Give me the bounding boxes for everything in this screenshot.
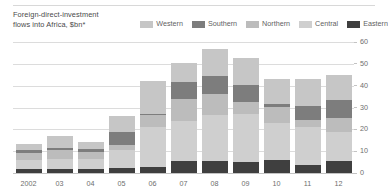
bar-segment-central-11[interactable] [295, 127, 321, 165]
bar-group-10[interactable] [264, 42, 290, 173]
y-tick-label: 50 [360, 60, 368, 68]
bar-group-04[interactable] [78, 42, 104, 173]
legend-item-eastern[interactable]: Eastern [347, 20, 388, 28]
bar-segment-northern-2002[interactable] [16, 153, 42, 160]
bar-segment-western-07[interactable] [171, 63, 197, 83]
bar-segment-eastern-2002[interactable] [16, 169, 42, 173]
y-tick-mark [354, 42, 357, 43]
bar-segment-southern-06[interactable] [140, 114, 166, 115]
bar-segment-central-07[interactable] [171, 121, 197, 162]
y-tick-20: 20 [354, 124, 388, 134]
legend-swatch-southern-icon [192, 21, 205, 28]
bar-segment-western-12[interactable] [326, 75, 352, 100]
bar-segment-eastern-03[interactable] [47, 169, 73, 173]
bar-segment-northern-08[interactable] [202, 94, 228, 115]
bar-segment-western-10[interactable] [264, 79, 290, 104]
bar-segment-eastern-07[interactable] [171, 161, 197, 173]
bar-segment-northern-09[interactable] [233, 102, 259, 114]
bar-group-2002[interactable] [16, 42, 42, 173]
y-tick-10: 10 [354, 146, 388, 156]
bar-segment-central-12[interactable] [326, 132, 352, 160]
legend-item-central[interactable]: Central [299, 20, 338, 28]
bar-segment-northern-03[interactable] [47, 150, 73, 159]
bar-segment-eastern-10[interactable] [264, 160, 290, 173]
bar-segment-northern-11[interactable] [295, 120, 321, 128]
bar-segment-northern-06[interactable] [140, 115, 166, 127]
bar-segment-southern-10[interactable] [264, 104, 290, 107]
y-tick-40: 40 [354, 81, 388, 91]
bar-segment-southern-11[interactable] [295, 106, 321, 119]
bar-segment-northern-04[interactable] [78, 152, 104, 160]
y-tick-mark [354, 173, 357, 174]
bar-segment-western-05[interactable] [109, 116, 135, 132]
bar-group-03[interactable] [47, 42, 73, 173]
y-tick-label: 10 [360, 147, 368, 155]
y-tick-mark [354, 85, 357, 86]
bar-segment-western-11[interactable] [295, 79, 321, 106]
y-tick-mark [354, 129, 357, 130]
bar-segment-southern-2002[interactable] [16, 150, 42, 153]
bar-segment-southern-03[interactable] [47, 148, 73, 150]
y-axis: 0102030405060 [354, 42, 388, 173]
bar-segment-northern-10[interactable] [264, 107, 290, 122]
x-tick-label-10: 10 [260, 179, 294, 189]
x-tick-label-11: 11 [291, 179, 325, 189]
y-tick-60: 60 [354, 37, 388, 47]
bar-segment-western-03[interactable] [47, 136, 73, 148]
bar-group-12[interactable] [326, 42, 352, 173]
bar-segment-southern-05[interactable] [109, 132, 135, 145]
bar-segment-eastern-06[interactable] [140, 167, 166, 173]
bar-segment-southern-12[interactable] [326, 100, 352, 119]
bar-group-05[interactable] [109, 42, 135, 173]
legend-swatch-western-icon [140, 21, 153, 28]
bar-group-09[interactable] [233, 42, 259, 173]
x-tick-label-09: 09 [229, 179, 263, 189]
bar-segment-northern-12[interactable] [326, 118, 352, 132]
bar-segment-eastern-05[interactable] [109, 168, 135, 173]
bar-segment-eastern-11[interactable] [295, 165, 321, 173]
bar-segment-western-2002[interactable] [16, 144, 42, 151]
legend-label: Central [315, 20, 338, 28]
bar-segment-eastern-12[interactable] [326, 161, 352, 173]
bar-segment-central-09[interactable] [233, 114, 259, 162]
bar-segment-central-05[interactable] [109, 150, 135, 167]
x-tick-label-12: 12 [322, 179, 356, 189]
y-tick-0: 0 [354, 168, 388, 178]
bar-segment-central-10[interactable] [264, 123, 290, 161]
bar-group-07[interactable] [171, 42, 197, 173]
bar-segment-eastern-08[interactable] [202, 161, 228, 173]
bar-segment-central-03[interactable] [47, 159, 73, 169]
legend-item-southern[interactable]: Southern [192, 20, 237, 28]
bar-segment-central-04[interactable] [78, 159, 104, 169]
bar-segment-eastern-09[interactable] [233, 162, 259, 173]
bar-segment-western-04[interactable] [78, 142, 104, 149]
legend-label: Western [156, 20, 183, 28]
bar-segment-southern-04[interactable] [78, 149, 104, 151]
bar-segment-central-08[interactable] [202, 115, 228, 161]
legend-swatch-central-icon [299, 21, 312, 28]
legend-item-western[interactable]: Western [140, 20, 183, 28]
x-tick-label-05: 05 [105, 179, 139, 189]
bar-segment-northern-05[interactable] [109, 145, 135, 150]
bar-segment-southern-07[interactable] [171, 82, 197, 98]
bar-segment-central-2002[interactable] [16, 160, 42, 169]
bar-segment-western-09[interactable] [233, 58, 259, 85]
x-tick-label-03: 03 [43, 179, 77, 189]
bar-group-06[interactable] [140, 42, 166, 173]
bar-segment-northern-07[interactable] [171, 99, 197, 121]
bar-segment-eastern-04[interactable] [78, 169, 104, 173]
bar-segment-southern-09[interactable] [233, 85, 259, 101]
legend-swatch-northern-icon [246, 21, 259, 28]
bar-segment-western-08[interactable] [202, 49, 228, 76]
bar-segment-western-06[interactable] [140, 81, 166, 114]
chart-legend: WesternSouthernNorthernCentralEastern [143, 18, 388, 30]
legend-label: Northern [262, 20, 290, 28]
y-tick-label: 60 [360, 38, 368, 46]
bar-segment-central-06[interactable] [140, 127, 166, 167]
legend-item-northern[interactable]: Northern [246, 20, 290, 28]
y-tick-mark [354, 107, 357, 108]
bar-group-08[interactable] [202, 42, 228, 173]
chart-header: Foreign-direct-investment flows into Afr… [13, 10, 373, 34]
bar-segment-southern-08[interactable] [202, 76, 228, 95]
bar-group-11[interactable] [295, 42, 321, 173]
